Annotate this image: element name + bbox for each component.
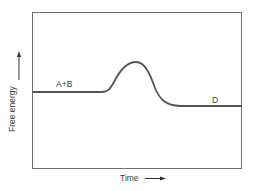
plot-frame bbox=[33, 13, 242, 169]
y-axis-arrow-icon bbox=[17, 51, 21, 57]
x-axis-arrow-icon bbox=[160, 177, 166, 181]
x-axis-label: Time bbox=[120, 174, 139, 183]
y-axis-label: Free energy bbox=[8, 86, 17, 132]
product-label: D bbox=[212, 96, 218, 105]
reactants-label: A+B bbox=[56, 80, 72, 89]
free-energy-diagram: A+B D Time Free energy bbox=[0, 0, 254, 191]
